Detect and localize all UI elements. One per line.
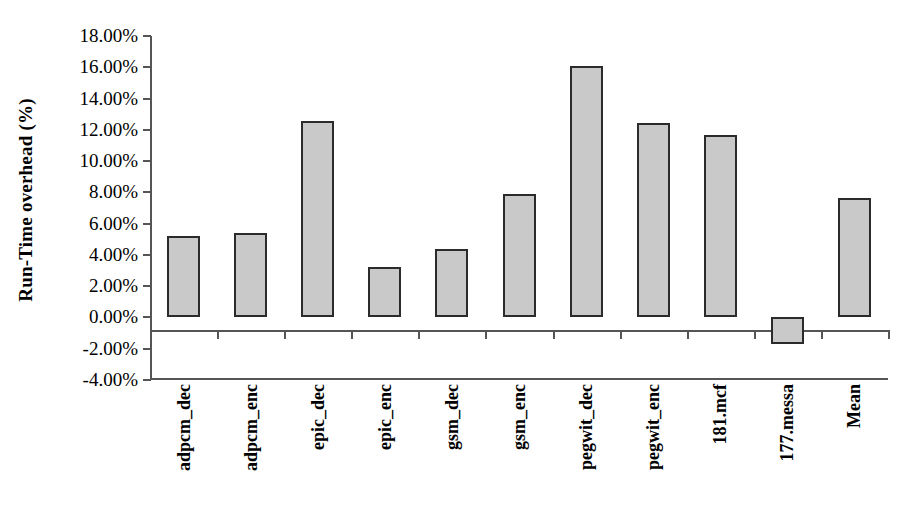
y-axis-tick-mark [143, 160, 151, 162]
x-axis-category-label: gsm_enc [511, 384, 527, 510]
x-axis-category-label-text: adpcm_enc [240, 384, 261, 471]
y-axis-tick-label: 0.00% [89, 306, 138, 328]
bar [167, 236, 200, 317]
x-axis-tick-mark [150, 330, 152, 339]
y-axis-tick-label: 6.00% [89, 213, 138, 235]
y-axis-tick-label: 12.00% [79, 119, 138, 141]
x-axis-tick-mark [888, 330, 890, 339]
y-axis-tick-mark [143, 66, 151, 68]
x-axis-tick-mark [687, 330, 689, 339]
y-axis-tick-label: 2.00% [89, 275, 138, 297]
bar [234, 233, 267, 317]
y-axis-tick-mark [143, 348, 151, 350]
y-axis-tick-label: 18.00% [79, 25, 138, 47]
bar [435, 249, 468, 318]
y-axis-line [150, 36, 152, 380]
y-axis-tick-mark [143, 129, 151, 131]
y-axis-title-text: Run-Time overhead (%) [15, 98, 37, 301]
x-axis-category-label: epic_dec [310, 384, 326, 510]
x-axis-tick-mark [553, 330, 555, 339]
bar [570, 66, 603, 317]
x-axis-category-label: adpcm_enc [243, 384, 259, 510]
y-axis-tick-mark [143, 316, 151, 318]
x-axis-tick-mark [485, 330, 487, 339]
y-axis-tick-label: 8.00% [89, 181, 138, 203]
y-axis-title: Run-Time overhead (%) [0, 0, 52, 400]
y-axis-tick-mark [143, 285, 151, 287]
x-axis-category-label-text: Mean [844, 384, 865, 428]
x-axis-category-label: pegwit_dec [578, 384, 594, 510]
bar [503, 194, 536, 318]
x-axis-category-label-text: gsm_enc [509, 384, 530, 450]
y-axis-tick-labels: 18.00%16.00%14.00%12.00%10.00%8.00%6.00%… [52, 0, 144, 512]
y-axis-tick-label: -4.00% [83, 369, 138, 391]
x-axis-category-label-text: adpcm_dec [173, 384, 194, 471]
x-axis-category-label-text: 177.messa [777, 384, 798, 462]
x-axis-category-label-text: pegwit_dec [576, 384, 597, 470]
x-axis-tick-mark [217, 330, 219, 339]
bar [301, 121, 334, 317]
x-axis-category-label-text: 181.mcf [710, 384, 731, 444]
x-axis-tick-mark [418, 330, 420, 339]
x-axis-category-label: gsm_dec [444, 384, 460, 510]
x-axis-category-label-text: gsm_dec [441, 384, 462, 450]
x-axis-tick-mark [754, 330, 756, 339]
plot-area [150, 36, 888, 380]
y-axis-tick-label: 16.00% [79, 56, 138, 78]
bar-chart: Run-Time overhead (%) 18.00%16.00%14.00%… [0, 0, 921, 512]
x-axis-category-label: 181.mcf [712, 384, 728, 510]
x-axis-category-label-text: epic_dec [307, 384, 328, 450]
y-axis-tick-label: -2.00% [83, 338, 138, 360]
x-axis-tick-mark [821, 330, 823, 339]
bar [704, 135, 737, 318]
x-axis-category-label: epic_enc [377, 384, 393, 510]
x-axis-category-label: adpcm_dec [176, 384, 192, 510]
y-axis-tick-mark [143, 254, 151, 256]
bar [838, 198, 871, 318]
x-axis-category-label: 177.messa [779, 384, 795, 510]
y-axis-tick-mark [143, 191, 151, 193]
x-axis-tick-mark [284, 330, 286, 339]
x-axis-tick-mark [351, 330, 353, 339]
x-axis-category-label: Mean [846, 384, 862, 510]
bar [771, 317, 804, 344]
bar [637, 123, 670, 318]
y-axis-tick-label: 10.00% [79, 150, 138, 172]
y-axis-tick-mark [143, 35, 151, 37]
bar [368, 267, 401, 317]
x-axis-category-labels: adpcm_decadpcm_encepic_decepic_encgsm_de… [150, 380, 888, 512]
x-axis-category-label: pegwit_enc [645, 384, 661, 510]
x-axis-category-label-text: epic_enc [374, 384, 395, 450]
x-axis-category-label-text: pegwit_enc [643, 384, 664, 470]
y-axis-tick-label: 4.00% [89, 244, 138, 266]
y-axis-tick-label: 14.00% [79, 88, 138, 110]
x-axis-tick-mark [620, 330, 622, 339]
y-axis-tick-mark [143, 223, 151, 225]
y-axis-tick-mark [143, 98, 151, 100]
